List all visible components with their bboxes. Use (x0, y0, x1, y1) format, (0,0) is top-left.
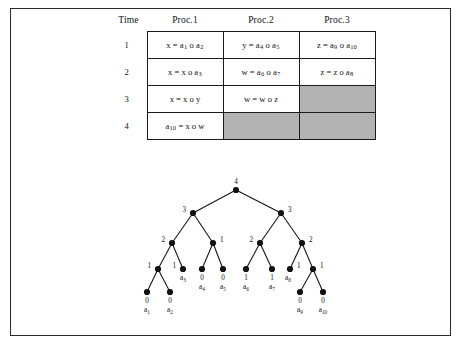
expression: z = a9 o a10 (317, 40, 357, 50)
expression: x = x o y (170, 94, 201, 104)
cell-time: 1 (110, 32, 147, 59)
column-header-proc1: Proc.1 (147, 12, 223, 32)
cell-proc3: z = a9 o a10 (299, 32, 375, 59)
table-row: 4a10 = x o w (110, 113, 375, 140)
cell-proc2 (223, 113, 299, 140)
column-header-time: Time (110, 12, 147, 32)
cell-proc2: w = w o z (223, 86, 299, 113)
table-row: 3x = x o yw = w o z (110, 86, 375, 113)
schedule-table-container: Time Proc.1 Proc.2 Proc.3 1x = a1 o a2y … (110, 12, 375, 140)
table-header-row: Time Proc.1 Proc.2 Proc.3 (110, 12, 375, 32)
schedule-table: Time Proc.1 Proc.2 Proc.3 1x = a1 o a2y … (110, 12, 376, 140)
cell-proc1: x = a1 o a2 (147, 32, 223, 59)
cell-proc2: y = a4 o a5 (223, 32, 299, 59)
expression: x = a1 o a2 (166, 40, 203, 50)
cell-time: 3 (110, 86, 147, 113)
cell-proc3 (299, 113, 375, 140)
table-row: 1x = a1 o a2y = a4 o a5z = a9 o a10 (110, 32, 375, 59)
cell-time: 4 (110, 113, 147, 140)
table-row: 2x = x o a3w = a6 o a7z = z o a8 (110, 59, 375, 86)
column-header-proc3: Proc.3 (299, 12, 375, 32)
cell-proc2: w = a6 o a7 (223, 59, 299, 86)
cell-proc1: x = x o a3 (147, 59, 223, 86)
cell-proc1: x = x o y (147, 86, 223, 113)
expression: w = a6 o a7 (241, 67, 280, 77)
table-header: Time Proc.1 Proc.2 Proc.3 (110, 12, 375, 32)
cell-time: 2 (110, 59, 147, 86)
cell-proc3 (299, 86, 375, 113)
cell-proc1: a10 = x o w (147, 113, 223, 140)
expression: w = w o z (244, 94, 278, 104)
expression: a10 = x o w (165, 121, 204, 131)
cell-proc3: z = z o a8 (299, 59, 375, 86)
column-header-proc2: Proc.2 (223, 12, 299, 32)
expression: y = a4 o a5 (242, 40, 279, 50)
table-body: 1x = a1 o a2y = a4 o a5z = a9 o a102x = … (110, 32, 375, 140)
expression: z = z o a8 (321, 67, 354, 77)
expression: x = x o a3 (168, 67, 202, 77)
figure-canvas: Time Proc.1 Proc.2 Proc.3 1x = a1 o a2y … (0, 0, 464, 347)
